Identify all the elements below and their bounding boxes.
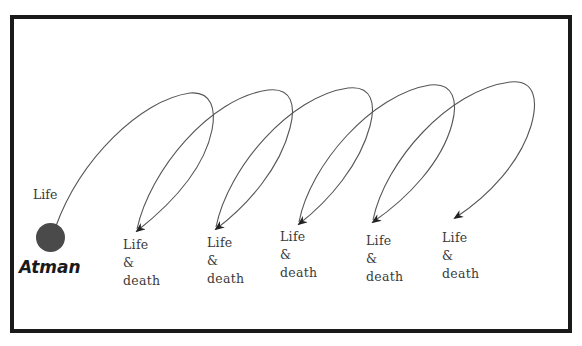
stage-label-2: Life & death [207,234,244,288]
stage-label-3: Life & death [280,228,317,282]
stage-2-line1: Life [207,234,244,252]
loop-arrows [0,0,582,346]
stage-label-4: Life & death [366,232,403,286]
stage-2-line2: & [207,252,244,270]
stage-5-line1: Life [442,229,479,247]
loop-arrow-3 [216,88,372,227]
stage-4-line1: Life [366,232,403,250]
stage-3-line2: & [280,246,317,264]
loop-arrow-2 [137,90,292,229]
stage-2-line3: death [207,270,244,288]
stage-1-line3: death [123,272,160,290]
stage-4-line3: death [366,268,403,286]
stage-4-line2: & [366,250,403,268]
origin-life-label: Life [33,187,57,202]
stage-5-line2: & [442,247,479,265]
stage-5-line3: death [442,265,479,283]
loop-arrow-1 [56,93,213,231]
atman-label: Atman [19,257,81,277]
stage-1-line1: Life [123,236,160,254]
loop-arrow-4 [299,85,454,222]
stage-label-5: Life & death [442,229,479,283]
atman-node [36,223,65,252]
stage-1-line2: & [123,254,160,272]
stage-3-line3: death [280,264,317,282]
stage-3-line1: Life [280,228,317,246]
stage-label-1: Life & death [123,236,160,290]
